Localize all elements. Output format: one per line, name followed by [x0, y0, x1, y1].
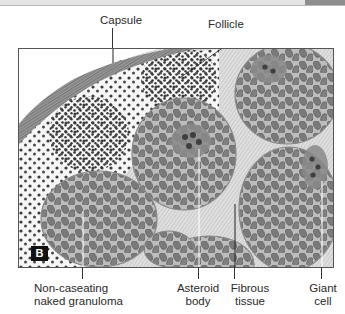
label-fibrous-line2: tissue — [225, 295, 275, 308]
leader-fibrous — [234, 267, 235, 279]
label-asteroid: Asteroid body — [168, 282, 228, 308]
leader-giant — [321, 267, 322, 279]
leader-granuloma — [82, 267, 83, 279]
label-asteroid-line2: body — [168, 295, 228, 308]
label-follicle: Follicle — [208, 18, 244, 31]
label-giant-line1: Giant — [303, 282, 343, 295]
panel-badge: B — [31, 246, 48, 261]
label-fibrous-line1: Fibrous — [225, 282, 275, 295]
histology-illustration — [19, 49, 333, 267]
label-giant-line2: cell — [303, 295, 343, 308]
label-fibrous: Fibrous tissue — [225, 282, 275, 308]
top-border-bar — [0, 0, 345, 6]
label-giant: Giant cell — [303, 282, 343, 308]
top-corner-box — [305, 0, 345, 5]
label-capsule: Capsule — [100, 14, 142, 27]
histology-image: B — [18, 48, 334, 268]
label-asteroid-line1: Asteroid — [168, 282, 228, 295]
label-granuloma-line2: naked granuloma — [34, 295, 123, 308]
leader-asteroid — [198, 267, 199, 279]
label-granuloma-line1: Non-caseating — [34, 282, 123, 295]
label-granuloma: Non-caseating naked granuloma — [34, 282, 123, 308]
